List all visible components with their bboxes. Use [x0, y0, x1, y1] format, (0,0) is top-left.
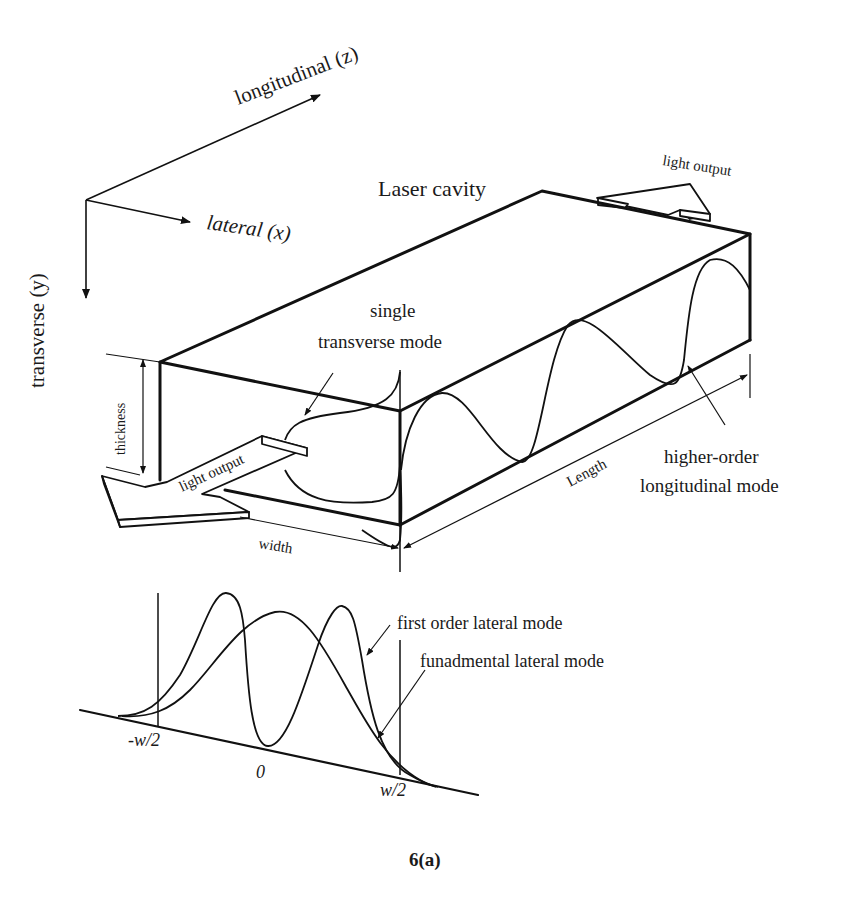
cavity-title: Laser cavity — [378, 176, 486, 201]
tick-pos-w2: w/2 — [380, 780, 406, 800]
thickness-label: thickness — [113, 403, 128, 455]
fundamental-pointer — [378, 670, 425, 738]
first-order-lateral-mode-curve — [118, 593, 438, 787]
longitudinal-mode-wave — [401, 259, 750, 470]
first-order-pointer — [367, 625, 390, 655]
longitudinal-mode-label-1: higher-order — [664, 446, 759, 467]
transverse-mode-pointer — [305, 373, 333, 415]
transverse-axis-label: transverse (y) — [25, 273, 49, 388]
laser-cavity-diagram: longitudinal (z) lateral (x) transverse … — [0, 0, 844, 912]
fundamental-mode-label: funadmental lateral mode — [420, 651, 604, 671]
longitudinal-axis-arrow — [86, 95, 320, 200]
transverse-mode-label-1: single — [370, 300, 415, 321]
tick-neg-w2: -w/2 — [128, 730, 160, 750]
first-order-mode-label: first order lateral mode — [397, 613, 562, 633]
tick-zero: 0 — [256, 762, 265, 782]
transverse-mode-label-2: transverse mode — [318, 331, 442, 352]
lateral-axis-arrow — [86, 200, 190, 222]
transverse-mode-lower-lobe — [362, 466, 402, 547]
lateral-axis-label: lateral (x) — [205, 210, 292, 246]
longitudinal-mode-label-2: longitudinal mode — [640, 475, 779, 496]
fundamental-lateral-mode-curve — [122, 611, 436, 787]
lateral-baseline — [80, 710, 478, 795]
length-label: Length — [564, 455, 609, 489]
width-label: width — [258, 535, 295, 556]
coordinate-axes — [86, 95, 320, 298]
figure-caption: 6(a) — [409, 849, 441, 871]
back-light-output-label: light output — [662, 152, 734, 179]
longitudinal-axis-label: longitudinal (z) — [231, 41, 361, 110]
